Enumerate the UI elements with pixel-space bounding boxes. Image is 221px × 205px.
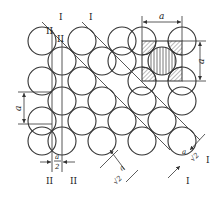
dim-diag-left-num: a	[118, 164, 127, 173]
plane-II-label-bottom-right: II	[70, 176, 78, 186]
plane-lines-II	[52, 30, 62, 172]
plane-I-label-bottom-right-a: I	[206, 155, 210, 165]
lattice-diagram: a a a a 2 a √2 a √2 I I II II II II I I	[0, 0, 221, 205]
dim-top-label: a	[159, 11, 164, 21]
dim-half-num: a	[55, 153, 59, 161]
dim-diag-right-den: √2	[189, 151, 201, 163]
dim-half-den: 2	[54, 163, 60, 171]
plane-I-label-bottom-right-b: I	[186, 176, 190, 186]
plane-II-label-bottom-left: II	[46, 176, 54, 186]
dim-diag-right-num: a	[182, 148, 186, 156]
plane-I-label-top-left: I	[59, 12, 63, 22]
plane-I-label-top-mid: I	[89, 12, 93, 22]
plane-II-label-top-b: II	[57, 34, 65, 44]
plane-II-label-top-a: II	[46, 26, 54, 36]
unit-cell	[128, 27, 196, 95]
dim-right-label: a	[196, 59, 206, 64]
dim-left-label: a	[13, 106, 23, 111]
dim-diag-left-den: √2	[112, 174, 124, 186]
dimension-half-a	[40, 161, 75, 162]
